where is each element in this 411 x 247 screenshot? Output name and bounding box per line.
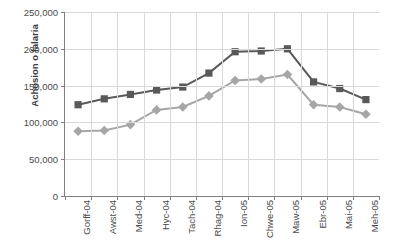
x-axis-tick-label: Gorff-04: [81, 200, 92, 235]
gridline-vertical: [301, 12, 302, 196]
y-axis-tick: [61, 12, 65, 13]
y-axis-tick: [61, 49, 65, 50]
x-axis-tick: [248, 196, 249, 200]
data-point-marker: [99, 126, 109, 136]
x-axis-tick-label: Maw-05: [290, 200, 301, 234]
data-point-marker: [73, 126, 83, 136]
data-point-marker: [361, 110, 371, 120]
data-point-marker: [127, 91, 134, 98]
y-axis-tick-labels: 050,000100,000150,000200,000250,000: [0, 0, 58, 247]
data-point-marker: [230, 76, 240, 86]
chart-container: Achosion o falaria 050,000100,000150,000…: [0, 0, 411, 247]
x-axis-tick: [301, 196, 302, 200]
x-axis-tick-label: Rhag-04: [212, 200, 223, 236]
data-point-marker: [74, 101, 81, 108]
x-axis-tick: [222, 196, 223, 200]
data-point-marker: [204, 91, 214, 101]
data-point-marker: [126, 120, 136, 130]
x-axis-tick-label: Tach-04: [186, 200, 197, 234]
gridline-vertical: [222, 12, 223, 196]
x-axis-tick: [379, 196, 380, 200]
data-point-marker: [310, 78, 317, 85]
y-axis-tick-label: 0: [4, 191, 58, 202]
y-axis-tick-label: 100,000: [4, 117, 58, 128]
x-axis-tick-label: Ebr-05: [317, 200, 328, 229]
x-axis-tick: [91, 196, 92, 200]
data-point-marker: [205, 69, 212, 76]
data-point-marker: [153, 86, 160, 93]
x-axis-tick: [170, 196, 171, 200]
data-point-marker: [152, 105, 162, 115]
x-axis-tick: [274, 196, 275, 200]
x-axis-tick-labels: Gorff-04Awst-04Med-04Hyc-04Tach-04Rhag-0…: [64, 196, 378, 247]
data-point-marker: [335, 102, 345, 112]
y-axis-tick-label: 50,000: [4, 154, 58, 165]
data-point-marker: [362, 96, 369, 103]
x-axis-tick: [65, 196, 66, 200]
gridline-vertical: [117, 12, 118, 196]
x-axis-tick: [353, 196, 354, 200]
data-point-marker: [179, 83, 186, 90]
x-axis-tick-label: Hyc-04: [160, 200, 171, 230]
y-axis-tick-label: 150,000: [4, 80, 58, 91]
y-axis-tick: [61, 159, 65, 160]
y-axis-tick-label: 200,000: [4, 43, 58, 54]
x-axis-tick-label: Meh-05: [369, 200, 380, 232]
x-axis-tick: [144, 196, 145, 200]
y-axis-tick: [61, 86, 65, 87]
gridline-vertical: [91, 12, 92, 196]
x-axis-tick-label: Awst-04: [107, 200, 118, 234]
gridline-vertical: [144, 12, 145, 196]
y-axis-tick-label: 250,000: [4, 7, 58, 18]
plot-area: [64, 12, 379, 197]
y-axis-tick: [61, 122, 65, 123]
gridline-vertical: [170, 12, 171, 196]
x-axis-tick: [117, 196, 118, 200]
gridline-vertical: [196, 12, 197, 196]
data-point-marker: [101, 95, 108, 102]
x-axis-tick-label: Chwe-05: [264, 200, 275, 238]
x-axis-tick-label: Ion-05: [238, 200, 249, 227]
data-point-marker: [178, 102, 188, 112]
x-axis-tick: [196, 196, 197, 200]
x-axis-tick: [327, 196, 328, 200]
x-axis-tick-label: Mai-05: [343, 200, 354, 229]
data-point-marker: [256, 74, 266, 84]
gridline-vertical: [327, 12, 328, 196]
gridline-vertical: [274, 12, 275, 196]
gridline-vertical: [353, 12, 354, 196]
gridline-vertical: [248, 12, 249, 196]
x-axis-tick-label: Med-04: [133, 200, 144, 232]
